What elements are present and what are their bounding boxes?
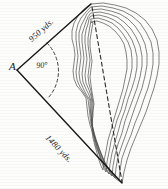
angle-arc [47, 43, 58, 98]
side-upper-line [17, 4, 91, 70]
contour-ring-4 [82, 12, 142, 176]
contour-ring-2 [76, 6, 153, 180]
contour-group [72, 3, 159, 183]
side-lower-line [17, 70, 122, 183]
figure-canvas [0, 0, 168, 189]
survey-figure: A 90° 950 yds. 1480 yds. [0, 0, 168, 189]
contour-ring-3 [79, 9, 147, 178]
contour-ring-5 [85, 15, 137, 174]
